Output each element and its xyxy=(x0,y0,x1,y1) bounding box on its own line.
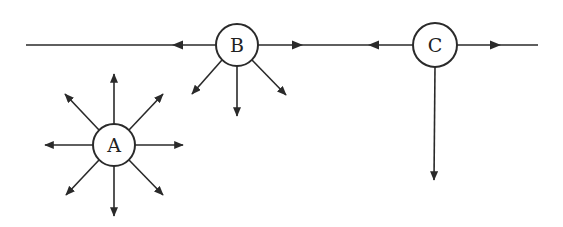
diagram-canvas: ABC xyxy=(0,0,563,227)
node-label: C xyxy=(428,34,443,56)
node-a: A xyxy=(93,124,135,166)
node-label: B xyxy=(230,34,244,56)
node-b: B xyxy=(216,24,258,66)
arrowhead-icon xyxy=(490,41,501,50)
arrowhead-icon xyxy=(368,41,379,50)
c-down-arrow xyxy=(434,67,435,180)
c-right-arrow xyxy=(490,41,501,50)
a-down-left-arrow xyxy=(66,160,99,195)
a-up-left-arrow xyxy=(65,94,99,130)
b-down-right-arrow xyxy=(252,60,286,95)
b-right-arrow xyxy=(292,41,303,50)
a-down-right-arrow xyxy=(129,160,163,195)
b-down-left-arrow xyxy=(192,60,222,94)
arrowhead-icon xyxy=(172,41,183,50)
node-label: A xyxy=(106,134,121,156)
b-left-arrow xyxy=(172,41,183,50)
a-up-right-arrow xyxy=(129,94,163,130)
node-c: C xyxy=(413,23,457,67)
arrowhead-icon xyxy=(292,41,303,50)
c-left-arrow xyxy=(368,41,379,50)
